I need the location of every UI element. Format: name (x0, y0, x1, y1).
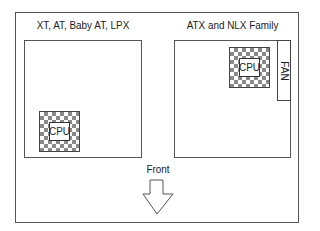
right-panel-title: ATX and NLX Family (180, 19, 285, 31)
front-label: Front (131, 163, 185, 175)
down-arrow-icon (140, 178, 176, 218)
fan-label: FAN (279, 61, 290, 80)
fan-box: FAN (277, 40, 291, 101)
left-panel-title: XT, AT, Baby AT, LPX (30, 19, 136, 31)
right-cpu-label: CPU (239, 58, 260, 77)
left-cpu-label: CPU (49, 122, 70, 141)
